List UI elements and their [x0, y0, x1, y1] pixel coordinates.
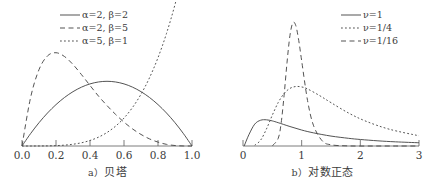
lognormal-legend-label-2: ν=1/16: [363, 35, 398, 46]
beta-legend-label-1: α=2, β=5: [82, 22, 128, 33]
beta-xtick-label-5: 1.0: [184, 149, 201, 161]
beta-curve-solid: [22, 81, 192, 146]
beta-legend: α=2, β=2 α=2, β=5 α=5, β=1: [60, 9, 128, 46]
beta-legend-label-0: α=2, β=2: [82, 9, 128, 20]
beta-xtick-label-2: 0.4: [82, 149, 99, 161]
lognormal-legend-label-0: ν=1: [363, 9, 383, 20]
lognormal-caption-text: 对数正态: [308, 166, 353, 179]
panel-lognormal: 0 1 2 3 ν=1 ν=1/4 ν=1/16 b）对数正态: [215, 0, 430, 188]
beta-legend-label-2: α=5, β=1: [82, 35, 128, 46]
lognormal-legend-label-1: ν=1/4: [363, 22, 392, 33]
lognormal-caption: b）对数正态: [215, 163, 430, 179]
lognormal-x-ticks: [243, 140, 419, 146]
figure-root: 0.0 0.2 0.4 0.6 0.8 1.0 α=2, β=2 α=2, β=…: [0, 0, 430, 188]
beta-caption: a）贝塔: [0, 163, 215, 179]
beta-caption-text: 贝塔: [104, 166, 127, 179]
lognormal-xtick-label-0: 0: [240, 149, 247, 161]
beta-xtick-label-1: 0.2: [48, 149, 65, 161]
beta-caption-letter: a）: [88, 167, 104, 178]
lognormal-legend: ν=1 ν=1/4 ν=1/16: [341, 9, 398, 46]
lognormal-curve-solid: [244, 120, 419, 146]
lognormal-plot: 0 1 2 3 ν=1 ν=1/4 ν=1/16: [215, 0, 430, 162]
lognormal-xtick-label-2: 2: [357, 149, 364, 161]
lognormal-caption-letter: b）: [292, 167, 309, 178]
beta-x-ticks: [22, 140, 192, 146]
lognormal-xtick-label-1: 1: [298, 149, 305, 161]
beta-xtick-label-4: 0.8: [150, 149, 167, 161]
beta-xtick-label-0: 0.0: [14, 149, 31, 161]
lognormal-xtick-label-3: 3: [416, 149, 423, 161]
beta-plot: 0.0 0.2 0.4 0.6 0.8 1.0 α=2, β=2 α=2, β=…: [0, 0, 215, 162]
beta-xtick-label-3: 0.6: [116, 149, 133, 161]
panel-beta: 0.0 0.2 0.4 0.6 0.8 1.0 α=2, β=2 α=2, β=…: [0, 0, 215, 188]
beta-curve-dashed: [22, 53, 192, 146]
